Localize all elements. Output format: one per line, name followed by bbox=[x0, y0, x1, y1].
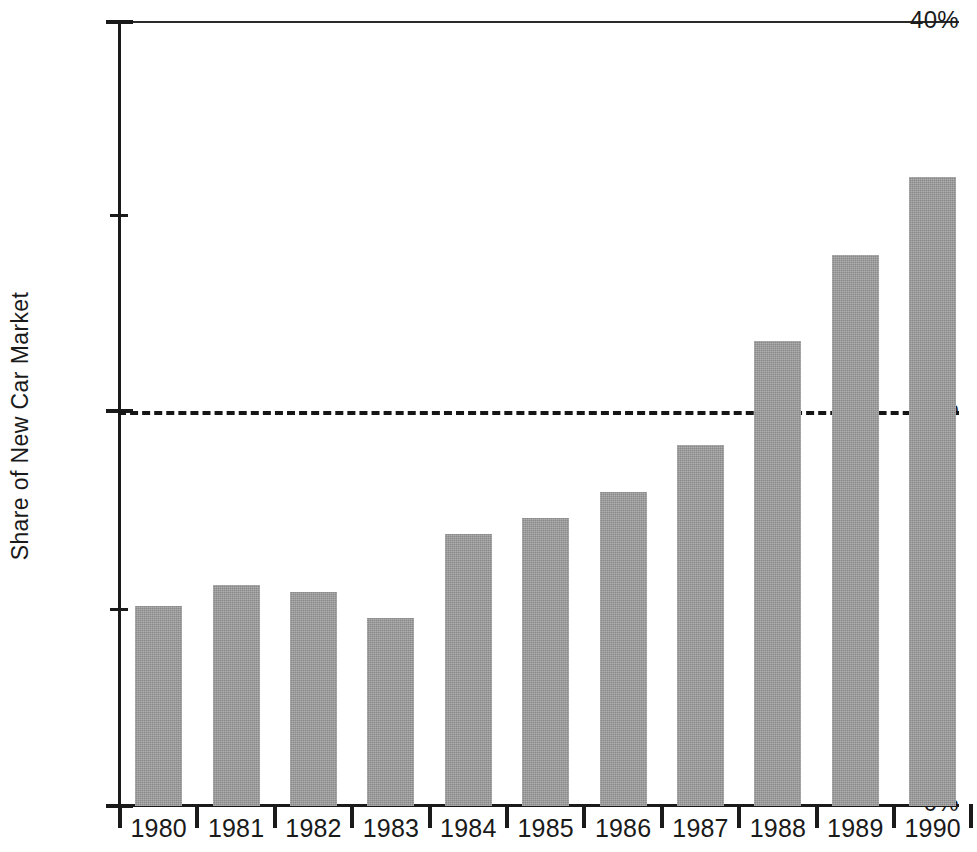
x-axis-label-1990: 1990 bbox=[888, 814, 977, 843]
bar-1983 bbox=[367, 618, 414, 806]
bar-1982 bbox=[290, 592, 337, 806]
y-tick-mark-40 bbox=[106, 20, 133, 24]
bar-1987 bbox=[677, 445, 724, 806]
bar-1986 bbox=[600, 492, 647, 806]
plot-top-border-line bbox=[118, 21, 959, 23]
bar-1989 bbox=[832, 255, 879, 806]
bar-1984 bbox=[445, 534, 492, 806]
bar-1981 bbox=[213, 585, 260, 806]
bar-1988 bbox=[754, 341, 801, 806]
bar-1980 bbox=[135, 606, 182, 806]
x-tick-mark-end bbox=[969, 804, 973, 828]
y-tick-mark-10 bbox=[110, 608, 128, 611]
y-axis-title: Share of New Car Market bbox=[0, 0, 40, 852]
bar-1985 bbox=[522, 518, 569, 806]
y-tick-mark-30 bbox=[110, 214, 128, 217]
bar-1990 bbox=[909, 177, 956, 806]
y-axis-label-40: 40% bbox=[865, 6, 959, 34]
